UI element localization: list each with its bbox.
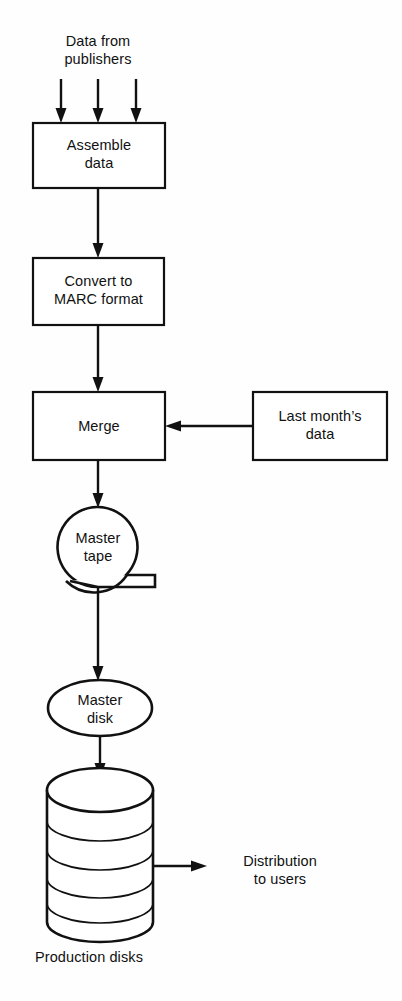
node-master-disk[interactable]: Master disk <box>48 680 152 736</box>
connector-convert-to-merge <box>93 325 104 392</box>
node-production-disks-label: Production disks <box>35 949 143 965</box>
node-convert-marc[interactable]: Convert to MARC format <box>33 258 164 325</box>
node-production-disks[interactable]: Production disks <box>35 768 153 965</box>
output-label-line1: Distribution <box>243 853 317 869</box>
node-convert-marc-label-line2: MARC format <box>54 291 143 307</box>
node-master-disk-ellipse[interactable] <box>48 680 152 736</box>
node-production-disks-top <box>47 768 153 812</box>
node-last-months-data-label-line1: Last month’s <box>278 408 361 424</box>
arrow-head-icon <box>56 108 67 123</box>
input-arrows-group <box>56 79 142 123</box>
connector-merge-to-master-tape <box>93 460 104 508</box>
arrow-head-icon <box>131 108 142 123</box>
input-label-data-from-publishers: Data from publishers <box>64 33 131 67</box>
node-master-tape-label-line2: tape <box>84 548 113 564</box>
node-last-months-data[interactable]: Last month’s data <box>253 392 387 460</box>
node-master-disk-label-line1: Master <box>78 692 123 708</box>
node-assemble-data-label-line2: data <box>85 155 114 171</box>
node-convert-marc-label-line1: Convert to <box>65 273 133 289</box>
arrow-head-icon <box>191 861 207 872</box>
arrow-head-icon <box>93 108 104 123</box>
flowchart-canvas: Data from publishers Assemble data <box>0 0 402 1001</box>
node-master-tape-label-line1: Master <box>76 530 121 546</box>
arrow-head-icon <box>93 377 104 392</box>
node-assemble-data-label-line1: Assemble <box>67 137 131 153</box>
node-last-months-data-label-line2: data <box>306 426 335 442</box>
arrow-head-icon <box>165 421 181 432</box>
input-label-line2: publishers <box>64 51 131 67</box>
output-label-line2: to users <box>254 871 306 887</box>
input-arrow-3 <box>131 79 142 123</box>
node-master-tape[interactable]: Master tape <box>58 507 156 592</box>
arrow-head-icon <box>93 243 104 258</box>
node-merge[interactable]: Merge <box>33 392 165 460</box>
flowchart-diagram: Data from publishers Assemble data <box>0 0 402 1001</box>
connector-production-to-distribution <box>153 861 207 872</box>
input-label-line1: Data from <box>66 33 131 49</box>
node-master-disk-label-line2: disk <box>87 710 114 726</box>
node-merge-label: Merge <box>78 418 120 434</box>
output-label-distribution-to-users: Distribution to users <box>243 853 317 887</box>
connector-assemble-to-convert <box>93 188 104 258</box>
input-arrow-1 <box>56 79 67 123</box>
node-assemble-data[interactable]: Assemble data <box>33 123 165 188</box>
input-arrow-2 <box>93 79 104 123</box>
connector-lastmonth-to-merge <box>165 421 253 432</box>
connector-tape-to-disk <box>93 587 104 681</box>
